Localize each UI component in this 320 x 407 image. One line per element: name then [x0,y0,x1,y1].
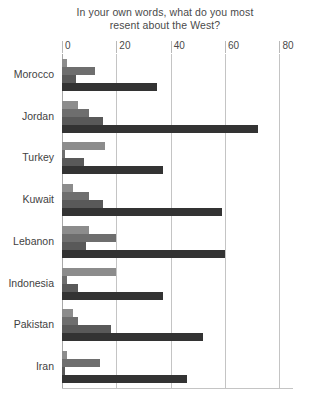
x-axis-baseline [62,388,293,389]
bar [62,125,258,133]
bar [62,83,157,91]
x-axis-tick-mark [171,41,172,53]
bar-group [62,179,293,221]
bar-group [62,138,293,180]
bar [62,166,163,174]
bar [62,117,103,125]
bar [62,242,86,250]
bar [62,192,89,200]
y-axis-label-morocco: Morocco [14,68,54,80]
x-axis-tick-mark [279,41,280,53]
bar-group [62,54,293,96]
x-axis-tick-mark [116,41,117,53]
bar [62,250,225,258]
bar [62,317,78,325]
bar-group [62,346,293,388]
chart-container: In your own words, what do you most rese… [0,0,320,407]
bar [62,226,89,234]
bar [62,351,67,359]
y-axis-label-iran: Iran [36,360,54,372]
x-axis-tick-labels: 020406080 [0,40,320,54]
bar [62,375,187,383]
x-axis-tick-label: 20 [119,40,130,51]
y-axis-category-labels: MoroccoJordanTurkeyKuwaitLebanonIndonesi… [0,54,58,388]
bar-group [62,263,293,305]
bar [62,109,89,117]
bar [62,276,67,284]
chart-title-line-1: In your own words, what do you most [40,6,290,19]
x-axis-tick-label: 60 [228,40,239,51]
bar [62,67,95,75]
y-axis-label-kuwait: Kuwait [22,193,54,205]
bar [62,200,103,208]
bar [62,150,65,158]
chart-title: In your own words, what do you most rese… [40,6,290,32]
plot-area [62,54,293,388]
bar-group [62,96,293,138]
bar [62,184,73,192]
bar [62,325,111,333]
bar [62,208,222,216]
x-axis-tick-mark [62,41,63,53]
bar [62,101,78,109]
bar [62,268,116,276]
bar [62,292,163,300]
bar [62,75,76,83]
bar [62,333,203,341]
y-axis-label-indonesia: Indonesia [8,277,54,289]
bar [62,158,84,166]
x-axis-tick-label: 0 [65,40,71,51]
bar [62,309,73,317]
bar [62,142,105,150]
y-axis-label-jordan: Jordan [22,110,54,122]
bar [62,59,67,67]
x-axis-tick-mark [225,41,226,53]
bar-group [62,305,293,347]
bar-group [62,221,293,263]
bar [62,359,100,367]
bar [62,367,65,375]
y-axis-label-pakistan: Pakistan [14,318,54,330]
y-axis-label-lebanon: Lebanon [13,235,54,247]
x-axis-tick-label: 80 [282,40,293,51]
y-axis-label-turkey: Turkey [22,151,54,163]
bar [62,234,116,242]
bar [62,284,78,292]
x-axis-tick-label: 40 [174,40,185,51]
chart-title-line-2: resent about the West? [40,19,290,32]
